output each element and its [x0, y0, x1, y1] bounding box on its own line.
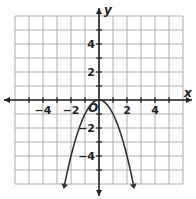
y-tick-label: −4 — [78, 150, 95, 163]
x-tick-label: 4 — [151, 104, 159, 117]
coordinate-plane: y x O −4−22442−2−4 — [0, 0, 196, 199]
y-axis-label: y — [104, 3, 113, 17]
y-tick-label: 2 — [87, 66, 95, 79]
x-tick-label: −4 — [35, 104, 52, 117]
x-axis-label: x — [183, 86, 193, 100]
y-tick-label: 4 — [87, 38, 95, 51]
x-tick-label: −2 — [63, 104, 80, 117]
x-tick-label: 2 — [123, 104, 131, 117]
y-axis-top-arrow-icon — [96, 8, 102, 14]
x-axis-left-arrow-icon — [4, 97, 10, 103]
y-axis-bottom-arrow-icon — [96, 190, 102, 196]
